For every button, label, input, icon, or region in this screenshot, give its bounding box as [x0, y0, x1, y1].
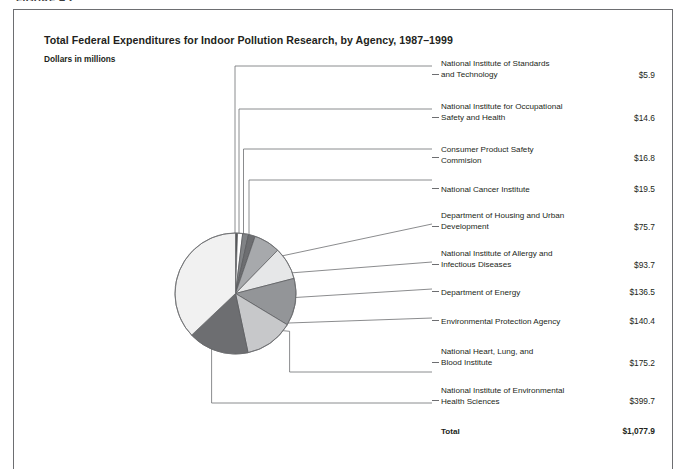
leader-tick — [432, 320, 439, 321]
legend-agency-label: Environmental Protection Agency — [441, 316, 591, 327]
legend-value: $399.7 — [629, 396, 655, 406]
leader-tick — [432, 157, 439, 158]
legend-value: $136.5 — [629, 287, 655, 297]
leader-line-niehs — [212, 283, 432, 403]
leader-tick — [432, 226, 439, 227]
leader-line-nhlbi — [226, 325, 432, 372]
legend-value: $5.9 — [639, 70, 655, 80]
leader-tick — [432, 117, 439, 118]
legend-row: Department of Energy$136.5 — [441, 287, 659, 317]
legend-agency-label: Department of Energy — [441, 287, 591, 298]
leader-tick — [432, 264, 439, 265]
legend-agency-label: Consumer Product SafetyCommision — [441, 144, 591, 167]
legend-value: $140.4 — [629, 316, 655, 326]
legend-value: $16.8 — [634, 153, 655, 163]
leader-tick — [432, 362, 439, 363]
legend-value: $14.6 — [634, 113, 655, 123]
leader-line-top — [239, 109, 432, 234]
legend-agency-label: National Institute for OccupationalSafet… — [441, 101, 591, 124]
legend-row: National Institute for OccupationalSafet… — [441, 101, 659, 131]
legend-row: National Heart, Lung, andBlood Institute… — [441, 346, 659, 376]
legend-agency-label: National Institute of EnvironmentalHealt… — [441, 385, 591, 408]
legend-row: Environmental Protection Agency$140.4 — [441, 316, 659, 346]
leader-line-top — [235, 66, 432, 234]
leader-line-top — [244, 149, 433, 235]
legend-value: $19.5 — [634, 184, 655, 194]
leader-tick — [432, 291, 439, 292]
legend-total-row: Total$1,077.9 — [441, 426, 659, 456]
leader-line-mid — [273, 289, 432, 299]
legend-row: National Institute of Standardsand Techn… — [441, 58, 659, 88]
legend-agency-label: National Cancer Institute — [441, 184, 591, 195]
legend-row: Department of Housing and UrbanDevelopme… — [441, 210, 659, 240]
legend-value: $93.7 — [634, 260, 655, 270]
legend-row: National Institute of EnvironmentalHealt… — [441, 385, 659, 415]
leader-line-mid — [268, 262, 432, 275]
legend-agency-label: National Heart, Lung, andBlood Institute — [441, 346, 591, 369]
leader-line-mid — [255, 224, 432, 262]
legend-agency-label: National Institute of Standardsand Techn… — [441, 58, 591, 81]
legend-total-label: Total — [441, 426, 591, 437]
leader-line-top — [249, 180, 432, 236]
leader-tick — [432, 188, 439, 189]
legend-agency-label: National Institute of Allergy andInfecti… — [441, 248, 591, 271]
leader-line-mid — [257, 318, 432, 324]
legend-row: Consumer Product SafetyCommision$16.8 — [441, 144, 659, 174]
legend-agency-label: Department of Housing and UrbanDevelopme… — [441, 210, 591, 233]
legend-value: $175.2 — [629, 358, 655, 368]
leader-tick — [432, 74, 439, 75]
legend-row: National Institute of Allergy andInfecti… — [441, 248, 659, 278]
leader-tick — [432, 400, 439, 401]
legend-total-value: $1,077.9 — [622, 426, 655, 436]
legend-value: $75.7 — [634, 222, 655, 232]
